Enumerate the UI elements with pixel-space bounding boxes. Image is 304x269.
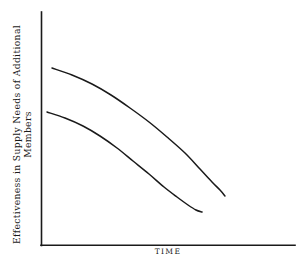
chart-canvas xyxy=(0,0,304,269)
chart-figure: Effectiveness in Supply Needs of Additio… xyxy=(0,0,304,269)
plot-background xyxy=(0,0,304,269)
